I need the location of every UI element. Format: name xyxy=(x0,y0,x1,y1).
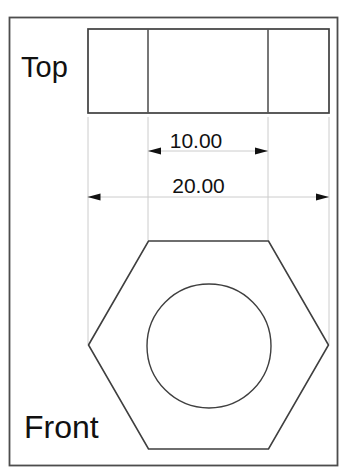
dimension-value-10: 10.00 xyxy=(170,129,223,152)
technical-drawing: Top 10.00 20.00 Front xyxy=(0,0,350,474)
front-view-label: Front xyxy=(24,409,99,445)
top-view-label: Top xyxy=(21,51,68,83)
dimension-value-20: 20.00 xyxy=(172,174,225,197)
